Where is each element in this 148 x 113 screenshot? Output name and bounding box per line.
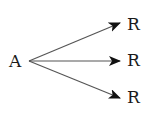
diagram-canvas: A R R R [0, 0, 148, 113]
target-node-label-bottom: R [127, 89, 140, 106]
target-node-label-middle: R [127, 52, 140, 69]
target-node-label-top: R [127, 16, 140, 33]
arrow-to-bottom-r [29, 61, 120, 98]
arrow-to-top-r [29, 23, 120, 61]
arrows-layer [0, 0, 148, 113]
source-node-label: A [9, 53, 21, 70]
